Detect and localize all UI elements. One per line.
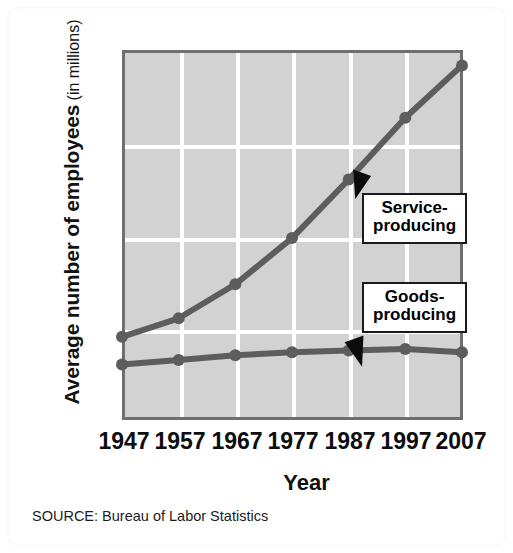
service-producing-callout: Service- producing (362, 193, 467, 244)
data-point (116, 331, 128, 343)
chart-figure: Average number of employees (in millions… (0, 0, 513, 553)
data-point (399, 343, 411, 355)
y-axis-title-units: (in millions) (65, 20, 82, 101)
source-note: SOURCE: Bureau of Labor Statistics (32, 508, 268, 524)
plot-wrapper: Service- producing Goods- producing (122, 50, 463, 420)
goods-producing-callout: Goods- producing (362, 282, 467, 333)
goods-callout-line2: producing (373, 306, 456, 324)
data-point (116, 359, 128, 371)
service-callout-line2: producing (373, 217, 456, 235)
data-point (456, 346, 468, 358)
y-axis-title-main: Average number of employees (60, 105, 83, 405)
data-point (286, 232, 298, 244)
data-point (456, 59, 468, 71)
data-point (399, 112, 411, 124)
service-callout-line1: Service- (381, 198, 447, 217)
x-axis-title-wrap: Year (0, 470, 513, 496)
data-point (229, 349, 241, 361)
x-tick-label: 2007 (416, 428, 506, 455)
x-axis-title: Year (183, 470, 330, 495)
data-point (229, 278, 241, 290)
y-axis-title: Average number of employees (in millions… (60, 12, 84, 412)
data-point (173, 354, 185, 366)
data-point (286, 346, 298, 358)
data-point (173, 312, 185, 324)
goods-callout-line1: Goods- (385, 287, 445, 306)
